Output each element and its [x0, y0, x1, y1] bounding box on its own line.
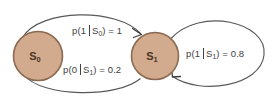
edge-label-s0-to-s1-prefix: p(1	[72, 25, 86, 36]
edge-label-s1-self-loop-prefix: p(1	[186, 48, 200, 59]
edge-label-s1-self-loop-suffix: ) = 0.8	[216, 48, 244, 59]
conditional-bar-icon	[203, 48, 204, 59]
edge-label-s1-to-s0-prefix: p(0	[63, 64, 77, 75]
conditional-bar-icon	[89, 25, 90, 36]
edge-label-s1-to-s0-condition-sub: 1	[89, 69, 93, 76]
edge-label-s1-self-loop: p(1S1) = 0.8	[186, 48, 244, 59]
state-transition-diagram: S0 S1 p(1S0) = 1 p(0S1) = 0.2 p(1S1) = 0…	[0, 0, 274, 102]
edge-label-s0-to-s1-suffix: ) = 1	[102, 25, 122, 36]
edge-label-s0-to-s1: p(1S0) = 1	[72, 25, 122, 36]
edge-label-s1-self-loop-condition-sub: 1	[212, 53, 216, 60]
edge-label-s0-to-s1-condition-sub: 0	[98, 30, 102, 37]
edge-label-s1-to-s0-suffix: ) = 0.2	[93, 64, 121, 75]
conditional-bar-icon	[80, 64, 81, 75]
edge-label-s1-to-s0: p(0S1) = 0.2	[63, 64, 121, 75]
